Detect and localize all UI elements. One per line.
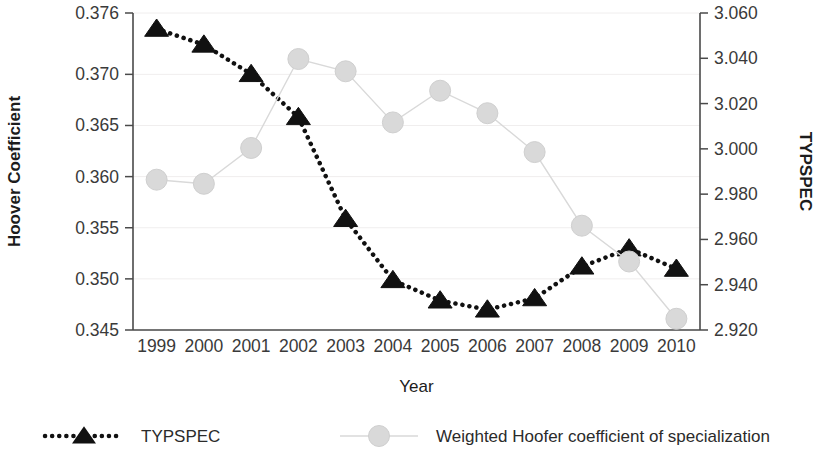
x-tick-label: 2009 bbox=[610, 336, 649, 356]
right-tick-label: 2.980 bbox=[714, 184, 758, 204]
data-point-marker bbox=[146, 169, 167, 190]
x-tick-label: 2002 bbox=[279, 336, 318, 356]
left-axis: 0.3450.3500.3550.3600.3650.3700.376 bbox=[75, 3, 133, 340]
left-tick-label: 0.355 bbox=[75, 218, 119, 238]
x-tick-label: 2010 bbox=[657, 336, 696, 356]
data-point-marker bbox=[241, 137, 262, 158]
right-tick-label: 2.920 bbox=[714, 320, 758, 340]
x-axis-title: Year bbox=[399, 377, 434, 396]
gridlines bbox=[133, 13, 700, 330]
x-tick-label: 2007 bbox=[515, 336, 554, 356]
data-point-marker bbox=[428, 291, 452, 308]
legend-label: TYPSPEC bbox=[141, 427, 220, 446]
data-point-marker bbox=[382, 112, 403, 133]
chart-legend: TYPSPECWeighted Hoofer coefficient of sp… bbox=[45, 426, 770, 447]
data-point-marker bbox=[666, 308, 687, 329]
data-point-marker bbox=[145, 19, 169, 36]
data-point-marker bbox=[430, 80, 451, 101]
legend-item[interactable]: Weighted Hoofer coefficient of specializ… bbox=[340, 426, 770, 447]
series-layer bbox=[145, 19, 689, 329]
x-tick-label: 2004 bbox=[373, 336, 412, 356]
data-point-marker bbox=[571, 215, 592, 236]
data-point-marker bbox=[619, 251, 640, 272]
y-axis-title: Hoover Coefficient bbox=[5, 96, 24, 247]
right-tick-label: 3.020 bbox=[714, 94, 758, 114]
left-tick-label: 0.345 bbox=[75, 320, 119, 340]
data-point-marker bbox=[288, 49, 309, 70]
x-tick-label: 2001 bbox=[232, 336, 271, 356]
series-line-0 bbox=[157, 29, 677, 310]
data-point-marker bbox=[335, 61, 356, 82]
chart-container: 0.3450.3500.3550.3600.3650.3700.376 2.92… bbox=[0, 0, 820, 451]
data-point-marker bbox=[334, 209, 358, 226]
legend-label: Weighted Hoofer coefficient of specializ… bbox=[436, 427, 770, 446]
x-tick-label: 1999 bbox=[137, 336, 176, 356]
x-tick-label: 2003 bbox=[326, 336, 365, 356]
left-tick-label: 0.360 bbox=[75, 167, 119, 187]
x-tick-label: 2000 bbox=[184, 336, 223, 356]
right-tick-label: 2.940 bbox=[714, 275, 758, 295]
data-point-marker bbox=[664, 259, 688, 276]
legend-marker bbox=[369, 426, 390, 447]
right-tick-label: 3.000 bbox=[714, 139, 758, 159]
left-tick-label: 0.350 bbox=[75, 269, 119, 289]
y2-axis-title: TYPSPEC bbox=[796, 132, 815, 211]
x-tick-label: 2006 bbox=[468, 336, 507, 356]
line-chart: 0.3450.3500.3550.3600.3650.3700.376 2.92… bbox=[0, 0, 820, 451]
legend-item[interactable]: TYPSPEC bbox=[45, 426, 220, 446]
data-point-marker bbox=[239, 64, 263, 81]
left-tick-label: 0.365 bbox=[75, 115, 119, 135]
left-tick-label: 0.376 bbox=[75, 3, 119, 23]
series-line-1 bbox=[157, 59, 677, 319]
data-point-marker bbox=[477, 103, 498, 124]
data-point-marker bbox=[193, 173, 214, 194]
right-tick-label: 2.960 bbox=[714, 229, 758, 249]
left-tick-label: 0.370 bbox=[75, 64, 119, 84]
data-point-marker bbox=[570, 257, 594, 274]
right-axis: 2.9202.9402.9602.9803.0003.0203.0403.060 bbox=[700, 3, 758, 340]
data-point-marker bbox=[524, 142, 545, 163]
x-tick-label: 2008 bbox=[562, 336, 601, 356]
legend-marker bbox=[72, 426, 96, 443]
right-tick-label: 3.060 bbox=[714, 3, 758, 23]
x-axis: 1999200020012002200320042005200620072008… bbox=[133, 330, 700, 356]
right-tick-label: 3.040 bbox=[714, 48, 758, 68]
x-tick-label: 2005 bbox=[421, 336, 460, 356]
